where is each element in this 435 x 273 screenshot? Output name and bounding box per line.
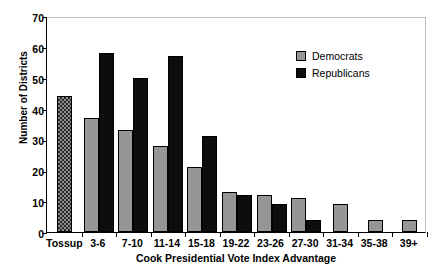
bar-group [254,18,289,232]
bar-republicans-11-14 [168,56,183,232]
bar-democrats-7-10 [118,130,133,232]
x-axis-label-19-22: 19-22 [219,236,254,251]
x-axis-label-15-18: 15-18 [184,236,219,251]
y-axis-tick-label: 40 [10,106,44,117]
bar-group [116,18,151,232]
y-axis-tick-label: 30 [10,136,44,147]
bar-democrats-3-6 [84,118,99,232]
bar-democrats-23-26 [257,195,272,232]
legend-label: Democrats [312,50,363,62]
bar-group [47,18,82,232]
bar-republicans-19-22 [237,195,252,232]
legend-item-democrats: Democrats [296,47,370,64]
x-axis-label-tossup: Tossup [46,236,81,251]
x-axis-label-23-26: 23-26 [253,236,288,251]
x-axis-label-3-6: 3-6 [81,236,116,251]
legend-swatch-democrats-icon [296,51,306,61]
bar-republicans-3-6 [99,53,114,232]
legend-swatch-republicans-icon [296,68,306,78]
x-axis-label-27-30: 27-30 [288,236,323,251]
x-axis-label-35-38: 35-38 [357,236,392,251]
y-axis-tick-label: 0 [10,229,44,240]
x-axis-title: Cook Presidential Vote Index Advantage [46,252,426,264]
x-axis-label-31-34: 31-34 [322,236,357,251]
bar-group [82,18,117,232]
bar-republicans-23-26 [272,204,287,232]
bar-tossup-tossup [57,96,72,232]
bar-democrats-27-30 [291,198,306,232]
x-axis-label-11-14: 11-14 [150,236,185,251]
bar-republicans-15-18 [202,136,217,232]
bar-democrats-15-18 [187,167,202,232]
bar-chart: Number of Districts 010203040506070 Toss… [0,0,435,273]
legend-item-republicans: Republicans [296,64,370,81]
x-axis-labels: Tossup3-67-1011-1415-1819-2223-2627-3031… [46,236,426,251]
bar-democrats-19-22 [222,192,237,232]
x-axis-label-39+: 39+ [391,236,426,251]
bar-group [220,18,255,232]
bar-democrats-11-14 [153,146,168,232]
y-axis-tick-label: 70 [10,13,44,24]
y-axis-tick-label: 50 [10,75,44,86]
chart-title-clipped [0,0,435,3]
bar-democrats-35-38 [368,220,383,232]
bar-republicans-27-30 [306,220,321,232]
bar-democrats-39+ [402,220,417,232]
bar-group [151,18,186,232]
y-axis-tick-label: 20 [10,167,44,178]
bar-democrats-31-34 [333,204,348,232]
x-axis-tick [427,232,428,237]
y-axis-tick-label: 10 [10,198,44,209]
bar-group [185,18,220,232]
y-axis-tick-label: 60 [10,44,44,55]
x-axis-label-7-10: 7-10 [115,236,150,251]
legend-label: Republicans [312,67,370,79]
bar-republicans-7-10 [133,78,148,232]
chart-legend: DemocratsRepublicans [296,47,370,81]
bar-group [392,18,427,232]
